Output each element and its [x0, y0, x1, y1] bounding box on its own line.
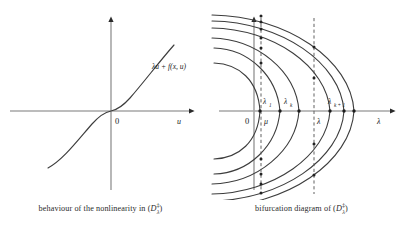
- bifurcation-point-3: [297, 109, 300, 112]
- two-panel-figure: 0 u λu + f(x, u) behaviour of the nonlin…: [0, 0, 402, 233]
- eigenvalue-label-lambda-k-plus-1: λ k + 1: [327, 97, 345, 108]
- bifurcation-point-lambda-1: [258, 109, 261, 112]
- right-caption: bifurcation diagram of (D‡λ): [201, 204, 402, 213]
- origin-label: 0: [115, 116, 119, 126]
- nonlinearity-graph: 0 u λu + f(x, u): [0, 0, 201, 200]
- bifurcation-point-5: [342, 109, 345, 112]
- lambda-axis-label: λ: [376, 117, 381, 126]
- left-caption: behaviour of the nonlinearity in (D‡λ): [0, 204, 201, 213]
- bifurcation-branches: [212, 15, 354, 200]
- mu-label: μ: [263, 117, 268, 126]
- x-axis-label: u: [177, 117, 181, 126]
- svg-text:λ: λ: [283, 97, 288, 106]
- curve-label: λu + f(x, u): [151, 62, 187, 71]
- bifurcation-point-lambda-k: [278, 109, 281, 112]
- svg-text:k + 1: k + 1: [334, 102, 345, 108]
- eigenvalue-label-lambda-1: λ 1: [262, 97, 272, 108]
- right-caption-text: bifurcation diagram of (: [255, 204, 336, 213]
- bifurcation-point-lambda-k1: [328, 109, 331, 112]
- right-caption-close: ): [345, 204, 348, 213]
- svg-text:λ: λ: [262, 97, 267, 106]
- left-panel: 0 u λu + f(x, u) behaviour of the nonlin…: [0, 0, 201, 233]
- left-caption-text: behaviour of the nonlinearity in (: [39, 204, 151, 213]
- bifurcation-graph: 0 μ λ λ 1 λ k λ k + 1 λ: [201, 0, 402, 200]
- left-caption-close: ): [160, 204, 163, 213]
- svg-text:λ: λ: [327, 97, 332, 106]
- branch-curve-6: [212, 15, 354, 200]
- lambda-label: λ: [316, 117, 321, 126]
- right-panel: 0 μ λ λ 1 λ k λ k + 1 λ bifurcation diag…: [201, 0, 402, 233]
- svg-text:1: 1: [269, 102, 272, 108]
- bifurcation-point-6: [352, 109, 355, 112]
- svg-text:k: k: [290, 102, 293, 108]
- origin-label: 0: [245, 116, 249, 126]
- eigenvalue-label-lambda-k: λ k: [283, 97, 293, 108]
